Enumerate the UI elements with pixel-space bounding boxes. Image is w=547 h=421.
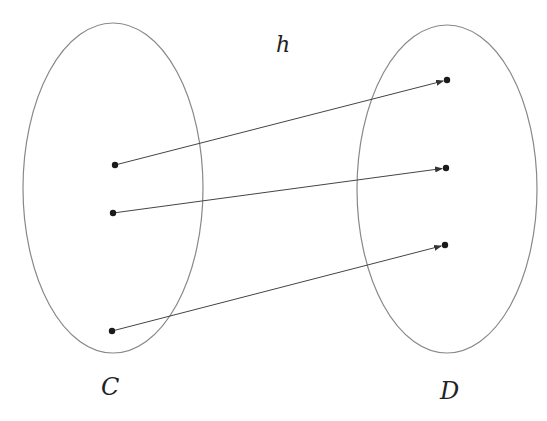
codomain-set-label: D — [439, 377, 459, 405]
mapping-diagram: h C D — [0, 0, 547, 421]
codomain-point — [442, 242, 448, 248]
domain-set-ellipse — [23, 23, 203, 353]
domain-point — [112, 162, 118, 168]
domain-set-label: C — [101, 373, 119, 401]
codomain-point — [444, 77, 450, 83]
codomain-point — [443, 165, 449, 171]
function-label: h — [276, 32, 290, 57]
mapping-arrow — [113, 169, 442, 213]
domain-point — [109, 328, 115, 334]
codomain-set-ellipse — [357, 25, 537, 353]
mapping-arrow — [115, 81, 443, 165]
domain-point — [110, 210, 116, 216]
